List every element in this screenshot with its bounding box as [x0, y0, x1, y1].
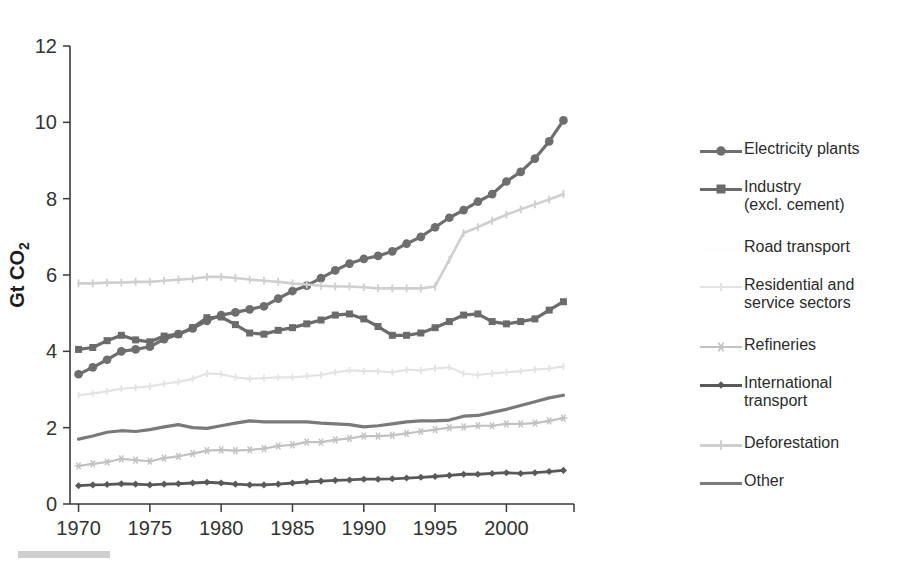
legend-item-label: Deforestation: [744, 434, 839, 452]
y-tick-label: 10: [35, 111, 57, 133]
data-marker: [132, 336, 139, 343]
data-marker: [303, 439, 311, 446]
data-marker: [89, 344, 96, 351]
data-marker: [474, 471, 481, 478]
y-tick-label: 12: [35, 35, 57, 57]
data-marker: [274, 443, 282, 450]
legend-marker-circle-icon: [711, 141, 731, 161]
data-marker: [445, 424, 453, 431]
data-marker: [117, 455, 125, 462]
data-marker: [545, 137, 554, 146]
data-marker: [445, 213, 454, 222]
series-line: [79, 395, 564, 439]
legend-item-label: Road transport: [744, 238, 850, 256]
data-marker: [331, 266, 340, 275]
legend-label-line1: Other: [744, 472, 784, 490]
data-marker: [260, 481, 267, 488]
data-marker: [459, 206, 468, 215]
data-marker: [360, 476, 367, 483]
data-marker: [89, 481, 96, 488]
data-marker: [374, 433, 382, 440]
legend-swatch-icon: [698, 336, 744, 358]
legend-item-industry-excl-cement[interactable]: Industry(excl. cement): [698, 178, 844, 214]
data-marker: [274, 294, 283, 303]
legend-label-line1: Deforestation: [744, 434, 839, 452]
data-marker: [189, 479, 196, 486]
legend-item-refineries[interactable]: Refineries: [698, 336, 816, 358]
data-marker: [289, 479, 296, 486]
data-marker: [517, 420, 525, 427]
legend-label-line1: Road transport: [744, 238, 850, 256]
data-marker: [517, 470, 524, 477]
data-marker: [474, 422, 482, 429]
legend-item-electricity-plants[interactable]: Electricity plants: [698, 140, 860, 162]
y-tick-label: 2: [46, 417, 57, 439]
data-marker: [103, 459, 111, 466]
data-marker: [531, 154, 540, 163]
y-tick-label: 6: [46, 264, 57, 286]
data-marker: [389, 332, 396, 339]
x-tick-label: 2000: [484, 517, 529, 539]
y-tick-label: 8: [46, 188, 57, 210]
data-marker: [303, 320, 310, 327]
data-marker: [546, 468, 553, 475]
legend-label-line1: Residential and: [744, 276, 854, 294]
data-marker: [403, 474, 410, 481]
data-marker: [317, 439, 325, 446]
series-4: [79, 363, 564, 399]
data-marker: [218, 313, 225, 320]
legend-item-international-transport[interactable]: Internationaltransport: [698, 374, 832, 410]
data-marker: [217, 446, 225, 453]
data-marker: [417, 474, 424, 481]
legend-item-other[interactable]: Other: [698, 472, 784, 494]
data-marker: [232, 321, 239, 328]
legend-item-label: Other: [744, 472, 784, 490]
data-marker: [488, 422, 496, 429]
legend-swatch-icon: [698, 374, 744, 396]
data-marker: [117, 347, 126, 356]
data-marker: [374, 252, 383, 261]
data-marker: [203, 447, 211, 454]
legend-item-residential-and-service-sectors[interactable]: Residential andservice sectors: [698, 276, 854, 312]
chart-figure: 0246810121970197519801985199019952000Gt …: [0, 0, 904, 564]
legend-marker-plus-icon: [711, 277, 731, 297]
data-marker: [175, 331, 182, 338]
legend-label-line2: (excl. cement): [744, 196, 844, 214]
data-marker: [503, 469, 510, 476]
data-marker: [275, 481, 282, 488]
legend-swatch-icon: [698, 276, 744, 298]
data-marker: [388, 247, 397, 256]
legend-label-line2: transport: [744, 392, 832, 410]
data-marker: [560, 298, 567, 305]
legend-swatch-icon: [698, 178, 744, 200]
legend-item-deforestation[interactable]: Deforestation: [698, 434, 839, 456]
data-marker: [104, 481, 111, 488]
data-marker: [502, 177, 511, 186]
data-marker: [174, 453, 182, 460]
data-marker: [531, 469, 538, 476]
data-marker: [246, 330, 253, 337]
legend-label-line2: service sectors: [744, 294, 854, 312]
legend-swatch-icon: [698, 238, 744, 260]
data-marker: [559, 116, 568, 125]
legend-marker-plus-icon: [711, 435, 731, 455]
data-marker: [346, 310, 353, 317]
legend-item-label: Internationaltransport: [744, 374, 832, 410]
data-marker: [416, 232, 425, 241]
legend-label-line1: International: [744, 374, 832, 392]
y-tick-label: 4: [46, 340, 57, 362]
data-marker: [303, 478, 310, 485]
data-marker: [502, 420, 510, 427]
data-marker: [332, 477, 339, 484]
legend-swatch-icon: [698, 472, 744, 494]
data-marker: [446, 472, 453, 479]
data-marker: [131, 345, 140, 354]
legend-marker-star-icon: [711, 337, 731, 357]
legend-marker-square-icon: [711, 179, 731, 199]
data-marker: [360, 433, 368, 440]
data-marker: [275, 327, 282, 334]
legend-item-road-transport[interactable]: Road transport: [698, 238, 850, 260]
data-marker: [75, 482, 82, 489]
data-marker: [546, 307, 553, 314]
data-marker: [189, 324, 196, 331]
